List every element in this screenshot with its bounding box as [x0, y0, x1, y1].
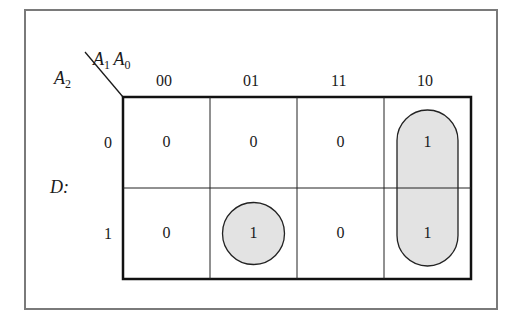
kmap-cell-r0-c1: 0 [244, 134, 264, 150]
column-header-11: 11 [331, 73, 346, 89]
kmap-cell-r0-c2: 0 [331, 134, 351, 150]
column-header-00: 00 [156, 73, 172, 89]
kmap-cell-r0-c3: 1 [418, 134, 438, 150]
column-header-01: 01 [243, 73, 259, 89]
column-header-10: 10 [417, 73, 433, 89]
kmap-cell-r1-c3: 1 [418, 225, 438, 241]
output-label: D: [50, 178, 69, 196]
kmap-svg [0, 0, 524, 327]
row-variable-label: A2 [54, 69, 71, 90]
col-variables-label: A1 A0 [93, 50, 131, 71]
row-header-0: 0 [104, 135, 112, 151]
row-header-1: 1 [104, 226, 112, 242]
kmap-cell-r1-c2: 0 [331, 225, 351, 241]
kmap-cell-r1-c1: 1 [244, 225, 264, 241]
kmap-cell-r1-c0: 0 [157, 225, 177, 241]
kmap-cell-r0-c0: 0 [157, 134, 177, 150]
